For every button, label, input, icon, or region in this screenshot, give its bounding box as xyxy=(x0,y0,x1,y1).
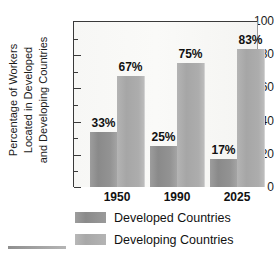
bar-developing-1990: 75% xyxy=(177,63,205,188)
y-tick-minor-10 xyxy=(74,171,78,172)
bar-developed-1990: 25% xyxy=(150,146,178,188)
legend-swatch-developing-icon xyxy=(75,234,106,245)
bar-value-developing-1990: 75% xyxy=(178,47,202,61)
y-tick-major-80 xyxy=(74,55,81,56)
bar-value-developing-1950: 67% xyxy=(118,60,142,74)
x-tick-label-2025: 2025 xyxy=(224,190,251,204)
x-tick-label-1950: 1950 xyxy=(104,190,131,204)
plot-area: 33% 67% 25% 75% 17% 83% xyxy=(73,21,258,187)
bar-developing-2025: 83% xyxy=(237,49,265,187)
y-tick-major-20 xyxy=(74,155,81,156)
bar-value-developed-1950: 33% xyxy=(91,116,115,130)
bar-developed-2025: 17% xyxy=(210,159,238,187)
legend-label-developed: Developed Countries xyxy=(114,211,231,225)
y-axis-title-line-2: Located in Developed xyxy=(21,37,36,164)
y-tick-minor-30 xyxy=(74,138,78,139)
legend-label-developing: Developing Countries xyxy=(114,233,234,247)
y-axis-title: Percentage of Workers Located in Develop… xyxy=(0,0,56,200)
bar-developed-1950: 33% xyxy=(90,132,118,187)
bar-value-developed-1990: 25% xyxy=(151,130,175,144)
y-axis-title-line-1: Percentage of Workers xyxy=(6,37,21,164)
y-tick-minor-50 xyxy=(74,105,78,106)
bar-value-developing-2025: 83% xyxy=(238,33,262,47)
bar-value-developed-2025: 17% xyxy=(211,143,235,157)
legend-item-developed: Developed Countries xyxy=(75,208,265,227)
y-tick-major-40 xyxy=(74,122,81,123)
y-tick-major-60 xyxy=(74,88,81,89)
x-tick-label-1990: 1990 xyxy=(164,190,191,204)
footer-rule xyxy=(8,246,66,249)
chart-screenshot: Percentage of Workers Located in Develop… xyxy=(0,0,274,255)
chart-legend: Developed Countries Developing Countries xyxy=(75,208,265,252)
y-axis-title-line-3: and Developing Countries xyxy=(36,37,51,164)
y-tick-major-0 xyxy=(74,187,81,188)
bar-developing-1950: 67% xyxy=(117,76,145,187)
legend-swatch-developed-icon xyxy=(75,212,106,223)
y-tick-minor-90 xyxy=(74,39,78,40)
legend-item-developing: Developing Countries xyxy=(75,230,265,249)
y-tick-minor-70 xyxy=(74,72,78,73)
